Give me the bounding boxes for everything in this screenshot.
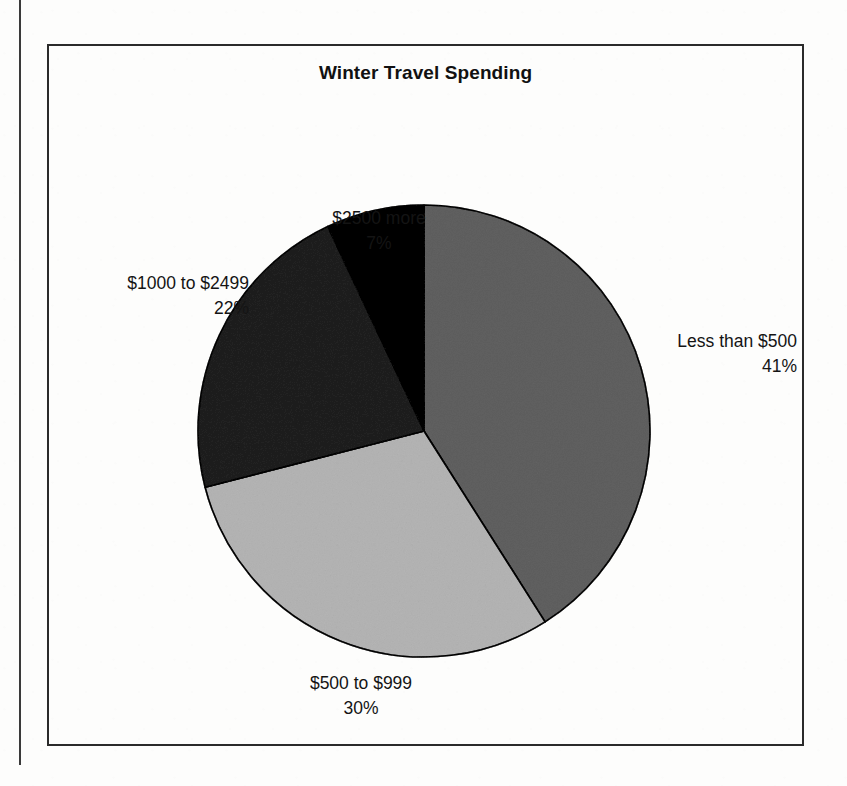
slice-label-less-than-500: Less than $500 41%	[597, 329, 797, 380]
slice-label-name: $1000 to $2499	[19, 271, 249, 296]
slice-label-percent: 41%	[597, 354, 797, 379]
slice-label-percent: 7%	[264, 231, 494, 256]
slice-label-500-to-999: $500 to $999 30%	[246, 671, 476, 722]
slice-label-1000-to-2499: $1000 to $2499 22%	[19, 271, 249, 322]
page-edge-rule	[19, 0, 21, 765]
slice-label-name: Less than $500	[597, 329, 797, 354]
pie-svg	[49, 46, 806, 748]
pie-chart: $2500 more 7% Less than $500 41% $1000 t…	[49, 46, 806, 748]
slice-label-percent: 30%	[246, 696, 476, 721]
slice-label-percent: 22%	[19, 296, 249, 321]
slice-label-name: $500 to $999	[246, 671, 476, 696]
page-canvas: Winter Travel Spending	[0, 0, 847, 786]
slice-label-name: $2500 more	[264, 206, 494, 231]
pie-slices	[198, 205, 650, 657]
slice-label-2500-more: $2500 more 7%	[264, 206, 494, 257]
chart-frame: Winter Travel Spending	[47, 44, 804, 746]
